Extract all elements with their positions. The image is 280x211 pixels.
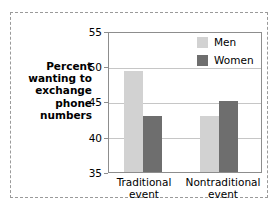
legend-swatch-women-icon — [197, 55, 208, 66]
legend-label-women: Women — [214, 55, 254, 66]
x-axis-label-nontraditional-line-2: event — [179, 188, 267, 200]
y-tick-label-35: 35 — [78, 168, 102, 178]
y-tick-label-40: 40 — [78, 133, 102, 143]
y-tick-mark-35 — [104, 173, 108, 174]
legend-item-women: Women — [197, 55, 254, 66]
x-axis-label-traditional: Traditional event — [104, 176, 184, 200]
x-axis-label-traditional-line-1: Traditional — [104, 176, 184, 188]
x-axis-label-traditional-line-2: event — [104, 188, 184, 200]
y-axis-title-line-3: exchange — [18, 84, 92, 96]
y-tick-label-45: 45 — [78, 97, 102, 107]
y-tick-label-50: 50 — [78, 62, 102, 72]
legend-swatch-men-icon — [197, 37, 208, 48]
y-tick-label-55: 55 — [78, 27, 102, 37]
legend: Men Women — [197, 37, 254, 73]
chart-figure: Percent wanting to exchange phone number… — [0, 0, 280, 211]
legend-item-men: Men — [197, 37, 254, 48]
y-axis-title-line-2: wanting to — [18, 72, 92, 84]
x-axis-label-nontraditional: Nontraditional event — [179, 176, 267, 200]
bar-traditional-men — [124, 71, 143, 172]
bar-traditional-women — [143, 116, 162, 172]
x-axis-label-nontraditional-line-1: Nontraditional — [179, 176, 267, 188]
bar-nontraditional-women — [219, 101, 238, 172]
y-axis-title-line-5: numbers — [18, 109, 92, 121]
bar-nontraditional-men — [200, 116, 219, 172]
legend-label-men: Men — [214, 37, 236, 48]
plot-area: Men Women — [108, 32, 262, 173]
